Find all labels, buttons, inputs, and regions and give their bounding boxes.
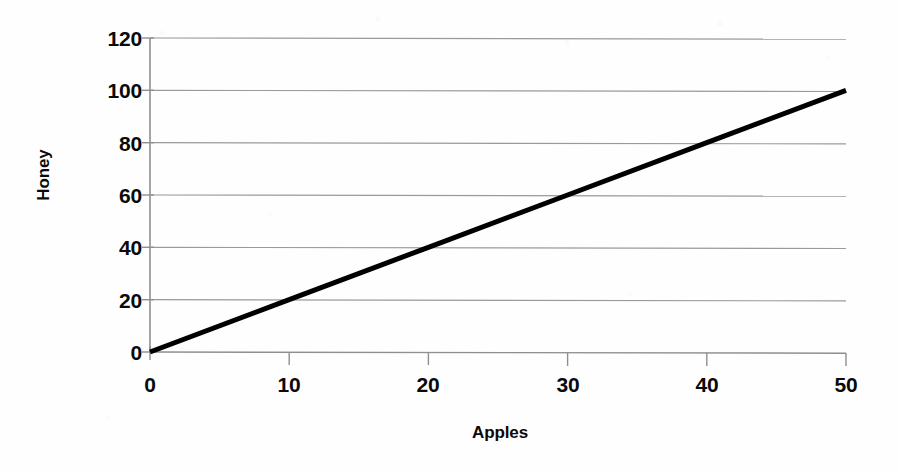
- gridline-y-40: [150, 247, 846, 248]
- y-tick-label-40: 40: [60, 236, 142, 260]
- gridline-y-120: [150, 38, 846, 39]
- x-tick-label-20: 20: [388, 373, 468, 397]
- y-tick-label-20: 20: [60, 289, 142, 313]
- x-tick-label-30: 30: [528, 373, 608, 397]
- y-tick-marks: [142, 38, 154, 352]
- gridline-y-60: [150, 195, 846, 196]
- y-tick-label-80: 80: [60, 132, 142, 156]
- y-tick-label-120: 120: [60, 27, 142, 51]
- data-line-honey-vs-apples: [150, 90, 846, 352]
- x-tick-label-40: 40: [667, 373, 747, 397]
- x-tick-label-10: 10: [249, 373, 329, 397]
- gridline-y-20: [150, 300, 846, 301]
- y-tick-label-0: 0: [60, 341, 142, 365]
- y-tick-label-100: 100: [60, 79, 142, 103]
- x-axis-title: Apples: [400, 423, 600, 443]
- gridline-y-100: [150, 90, 846, 91]
- gridlines-horizontal: [150, 38, 846, 301]
- gridline-y-80: [150, 143, 846, 144]
- x-axis-line: [150, 352, 846, 353]
- chart-container: 120 100 80 60 40 20 0 0 10 20 30 40 50 H…: [0, 0, 900, 474]
- x-tick-label-50: 50: [806, 373, 886, 397]
- x-tick-marks: [150, 346, 846, 366]
- y-axis-title: Honey: [34, 125, 54, 225]
- x-tick-label-0: 0: [110, 373, 190, 397]
- y-tick-label-60: 60: [60, 184, 142, 208]
